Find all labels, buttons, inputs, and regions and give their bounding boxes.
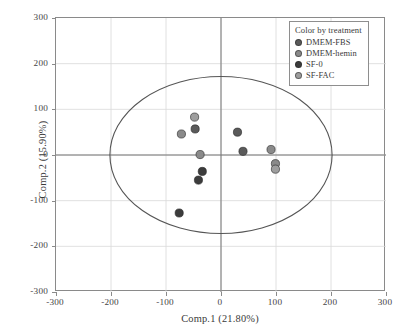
x-tick-label: 0 [218, 297, 223, 307]
y-tick-label: -300 [14, 286, 48, 296]
data-point [267, 145, 275, 153]
legend-items: DMEM-FBSDMEM-heminSF-0SF-FAC [295, 37, 362, 81]
y-tick-mark [52, 109, 56, 110]
data-point [233, 128, 241, 136]
data-point [239, 147, 247, 155]
legend-item-dmem-hemin[interactable]: DMEM-hemin [295, 48, 362, 59]
x-tick-label: -300 [46, 297, 64, 307]
data-point [198, 167, 206, 175]
legend-item-label: DMEM-hemin [306, 49, 357, 58]
legend-item-label: SF-0 [306, 60, 323, 69]
data-point [175, 209, 183, 217]
y-tick-mark [52, 64, 56, 65]
legend-item-sf-fac[interactable]: SF-FAC [295, 70, 362, 81]
data-point [271, 165, 279, 173]
x-tick-mark [56, 292, 57, 296]
legend-swatch-circle-icon [295, 50, 302, 57]
x-tick-mark [331, 292, 332, 296]
legend-swatch-circle-icon [295, 61, 302, 68]
chart-root: Comp.1 (21.80%) Comp.2 (15.90%) Color by… [0, 0, 400, 334]
y-tick-mark [52, 201, 56, 202]
legend-item-dmem-fbs[interactable]: DMEM-FBS [295, 37, 362, 48]
legend-swatch-circle-icon [295, 72, 302, 79]
legend-item-sf-0[interactable]: SF-0 [295, 59, 362, 70]
y-tick-mark [52, 155, 56, 156]
legend-item-label: DMEM-FBS [306, 38, 351, 47]
y-tick-mark [52, 246, 56, 247]
x-tick-mark [386, 292, 387, 296]
y-tick-label: -200 [14, 240, 48, 250]
y-tick-label: 300 [14, 12, 48, 22]
data-point [194, 176, 202, 184]
y-tick-mark [52, 292, 56, 293]
y-axis-title: Comp.2 (15.90%) [37, 60, 48, 260]
x-tick-label: -200 [101, 297, 119, 307]
legend-title: Color by treatment [295, 25, 362, 35]
x-tick-mark [111, 292, 112, 296]
x-tick-mark [276, 292, 277, 296]
x-tick-mark [166, 292, 167, 296]
data-point [196, 150, 204, 158]
y-tick-label: -100 [14, 195, 48, 205]
x-tick-label: -100 [156, 297, 174, 307]
legend-item-label: SF-FAC [306, 71, 334, 80]
x-axis-title: Comp.1 (21.80%) [55, 313, 385, 324]
x-tick-mark [221, 292, 222, 296]
x-tick-label: 300 [378, 297, 392, 307]
y-tick-label: 200 [14, 58, 48, 68]
y-tick-label: 0 [14, 149, 48, 159]
legend-swatch-circle-icon [295, 39, 302, 46]
x-tick-label: 200 [323, 297, 337, 307]
x-tick-label: 100 [268, 297, 282, 307]
y-tick-mark [52, 18, 56, 19]
legend: Color by treatment DMEM-FBSDMEM-heminSF-… [289, 21, 369, 86]
data-point [177, 130, 185, 138]
y-tick-label: 100 [14, 103, 48, 113]
data-point [191, 113, 199, 121]
data-point [191, 125, 199, 133]
